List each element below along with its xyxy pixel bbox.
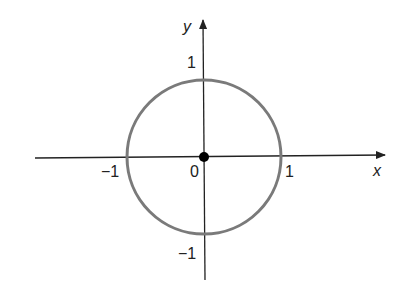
unit-circle-diagram: x y −1 0 1 1 −1 bbox=[0, 0, 400, 295]
y-tick-label-1: 1 bbox=[187, 54, 196, 71]
origin-point bbox=[199, 152, 209, 162]
x-tick-label-neg1: −1 bbox=[101, 163, 119, 180]
y-tick-label-neg1: −1 bbox=[178, 245, 196, 262]
x-axis-label: x bbox=[372, 162, 382, 179]
x-axis bbox=[35, 155, 385, 158]
y-axis bbox=[203, 20, 205, 280]
x-tick-label-0: 0 bbox=[190, 163, 199, 180]
y-axis-label: y bbox=[182, 18, 192, 35]
x-tick-label-1: 1 bbox=[285, 163, 294, 180]
